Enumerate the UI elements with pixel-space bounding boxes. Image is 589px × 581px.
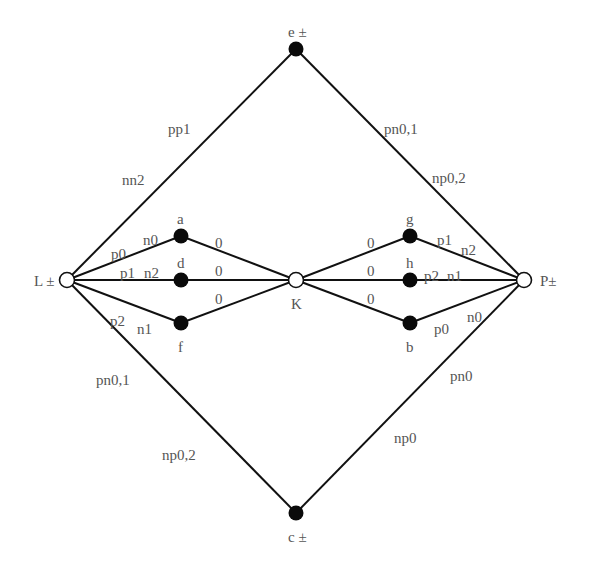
edge-label: n0 xyxy=(467,309,482,325)
edge-e-P xyxy=(296,49,524,280)
node-label-f: f xyxy=(178,339,183,355)
node-e xyxy=(289,42,304,57)
node-L xyxy=(60,273,75,288)
edge-label: 0 xyxy=(367,263,375,279)
node-K xyxy=(289,273,304,288)
edge-a-K xyxy=(181,236,296,280)
node-label-b: b xyxy=(406,339,414,355)
edge-label: n1 xyxy=(137,321,152,337)
graph-svg: L ±P±Ke ±c ±adfghb pp1nn2pn0,1np0,2pn0,1… xyxy=(0,0,589,581)
node-label-K: K xyxy=(291,296,302,312)
edge-label: p1 xyxy=(120,265,135,281)
node-b xyxy=(403,316,418,331)
edge-L-c xyxy=(67,280,296,513)
edge-label: pn0,1 xyxy=(384,121,418,137)
edge-c-P xyxy=(296,280,524,513)
edge-label: n2 xyxy=(461,242,476,258)
node-label-g: g xyxy=(406,211,414,227)
edge-label: pp1 xyxy=(168,121,191,137)
node-label-P: P± xyxy=(540,273,557,289)
node-label-e: e ± xyxy=(288,24,307,40)
edge-K-b xyxy=(296,280,410,323)
node-f xyxy=(174,316,189,331)
node-label-d: d xyxy=(177,255,185,271)
node-P xyxy=(517,273,532,288)
node-d xyxy=(174,273,189,288)
edge-label: p2 xyxy=(110,313,125,329)
graph-diagram: L ±P±Ke ±c ±adfghb pp1nn2pn0,1np0,2pn0,1… xyxy=(0,0,589,581)
edge-label: nn2 xyxy=(122,172,145,188)
edge-label: p1 xyxy=(437,232,452,248)
node-label-h: h xyxy=(406,255,414,271)
edge-label: p0 xyxy=(111,246,126,262)
edge-label: n2 xyxy=(144,265,159,281)
edge-label: np0,2 xyxy=(162,447,196,463)
edge-f-K xyxy=(181,280,296,323)
edge-L-e xyxy=(67,49,296,280)
edge-label: 0 xyxy=(215,263,223,279)
edge-labels-layer: pp1nn2pn0,1np0,2pn0,1np0,2pn0np0p0n0p1n2… xyxy=(96,121,482,463)
edge-label: p0 xyxy=(434,321,449,337)
edge-label: n0 xyxy=(143,232,158,248)
edge-label: pn0 xyxy=(450,368,473,384)
edge-label: 0 xyxy=(367,235,375,251)
edge-label: n1 xyxy=(447,268,462,284)
node-a xyxy=(174,229,189,244)
edge-label: np0,2 xyxy=(432,170,466,186)
edge-label: 0 xyxy=(367,291,375,307)
edge-label: p2 xyxy=(424,268,439,284)
edge-label: 0 xyxy=(215,291,223,307)
edge-K-g xyxy=(296,236,410,280)
edge-label: pn0,1 xyxy=(96,372,130,388)
node-g xyxy=(403,229,418,244)
edge-label: 0 xyxy=(215,235,223,251)
node-label-L: L ± xyxy=(34,273,55,289)
node-label-a: a xyxy=(177,211,184,227)
node-c xyxy=(289,506,304,521)
node-label-c: c ± xyxy=(288,529,307,545)
node-h xyxy=(403,273,418,288)
edge-label: np0 xyxy=(394,430,417,446)
